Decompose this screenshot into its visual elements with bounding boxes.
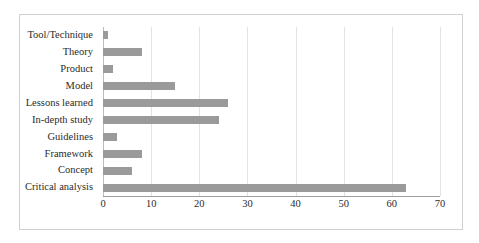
category-label: Guidelines (20, 128, 99, 145)
bar-row-framework (103, 145, 440, 162)
category-label: Framework (20, 145, 99, 162)
x-tick-label-40: 40 (290, 199, 301, 210)
category-label: Model (20, 78, 99, 95)
x-axis-line (103, 196, 440, 197)
category-label: In-depth study (20, 112, 99, 129)
category-label: Product (20, 61, 99, 78)
plot-area (103, 27, 440, 196)
chart-frame: Tool/Technique Theory Product Model Less… (19, 14, 463, 230)
bar-row-product (103, 61, 440, 78)
bar-concept (103, 167, 132, 175)
chart-plot-wrapper: Tool/Technique Theory Product Model Less… (20, 15, 462, 229)
bar-row-in-depth-study (103, 112, 440, 129)
category-label: Tool/Technique (20, 27, 99, 44)
category-label: Theory (20, 44, 99, 61)
x-tick-label-0: 0 (100, 199, 105, 210)
x-tick-label-30: 30 (242, 199, 253, 210)
bar-product (103, 65, 113, 73)
bar-theory (103, 48, 142, 56)
category-label: Lessons learned (20, 95, 99, 112)
category-axis: Tool/Technique Theory Product Model Less… (20, 27, 99, 196)
x-tick-label-10: 10 (146, 199, 157, 210)
x-tick-label-50: 50 (338, 199, 349, 210)
bar-row-tool-technique (103, 27, 440, 44)
category-label: Concept (20, 162, 99, 179)
bar-lessons-learned (103, 99, 228, 107)
bar-row-concept (103, 162, 440, 179)
bar-model (103, 82, 175, 90)
bar-row-guidelines (103, 128, 440, 145)
gridline-70 (440, 27, 441, 196)
bar-row-theory (103, 44, 440, 61)
x-axis-labels: 010203040506070 (103, 199, 440, 217)
x-tick-label-20: 20 (194, 199, 205, 210)
bar-in-depth-study (103, 116, 219, 124)
x-tick-label-60: 60 (387, 199, 398, 210)
category-label: Critical analysis (20, 179, 99, 196)
bar-row-model (103, 78, 440, 95)
bar-series (103, 27, 440, 196)
bar-row-critical-analysis (103, 179, 440, 196)
bar-critical-analysis (103, 184, 406, 192)
bar-guidelines (103, 133, 117, 141)
bar-tool-technique (103, 31, 108, 39)
bar-framework (103, 150, 142, 158)
x-tick-label-70: 70 (435, 199, 446, 210)
bar-row-lessons-learned (103, 95, 440, 112)
